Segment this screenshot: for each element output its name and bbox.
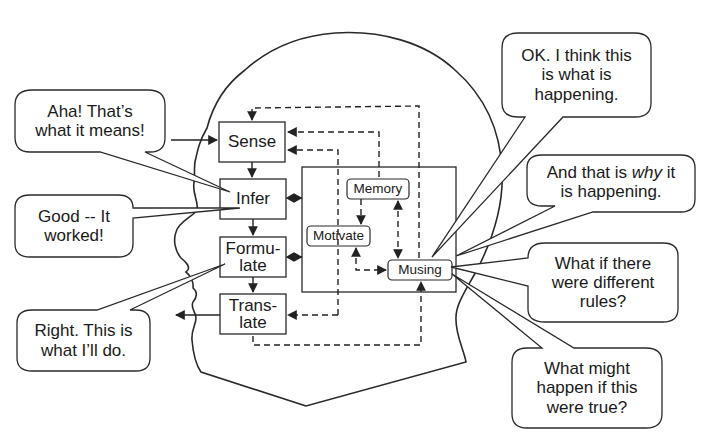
bubble-span: And that is [547, 163, 632, 182]
solid-arrows [171, 140, 253, 315]
bubble-whatmight-text: What might happen if this were true? [512, 348, 662, 428]
infer-label: Infer [220, 179, 286, 219]
translate-text-2: late [239, 314, 266, 331]
sense-text: Sense [228, 132, 276, 151]
motivate-text: Motivate [313, 228, 364, 243]
formulate-label: Formu- late [220, 237, 286, 277]
motivate-label: Motivate [307, 226, 370, 246]
infer-text: Infer [236, 189, 270, 208]
bubble-right-text: Right. This is what I’ll do. [17, 310, 150, 371]
bubble-line: Aha! That’s [47, 102, 132, 121]
formulate-text-1: Formu- [226, 240, 281, 257]
bubble-line: OK. I think this [521, 46, 632, 65]
bubble-good-text: Good -- It worked! [15, 195, 133, 257]
emphasis-why: why [632, 163, 662, 182]
bubble-line: happen if this [536, 378, 637, 397]
bubble-line: rules? [580, 292, 626, 311]
sense-label: Sense [219, 122, 285, 162]
bubble-line: And that is why it [547, 163, 676, 182]
bubble-whatif-text: What if there were different rules? [528, 243, 678, 322]
bubble-line: is what is [542, 65, 612, 84]
bubble-line: is happening. [560, 182, 661, 201]
bubble-line: What if there [555, 254, 651, 273]
translate-text-1: Trans- [229, 297, 278, 314]
bubble-line: What might [544, 359, 630, 378]
bubble-line: were different [552, 273, 655, 292]
musing-text: Musing [398, 262, 442, 277]
bubble-aha-text: Aha! That’s what it means! [15, 90, 165, 152]
bubble-line: happening. [534, 85, 618, 104]
bubble-line: what it means! [35, 121, 145, 140]
translate-label: Trans- late [220, 294, 286, 334]
bubble-line: were true? [547, 398, 627, 417]
bubble-line: what I’ll do. [41, 341, 126, 360]
bubble-line: worked! [44, 226, 104, 245]
bubble-ok-text: OK. I think this is what is happening. [502, 33, 651, 117]
musing-label: Musing [388, 260, 452, 280]
memory-label: Memory [347, 179, 409, 199]
diamond-connectors [287, 194, 302, 261]
memory-text: Memory [354, 181, 403, 196]
bubble-line: Good -- It [38, 207, 110, 226]
bubble-span: it [662, 163, 675, 182]
formulate-text-2: late [239, 257, 266, 274]
bubble-why-text: And that is why it is happening. [527, 155, 695, 209]
bubble-line: Right. This is [35, 321, 133, 340]
